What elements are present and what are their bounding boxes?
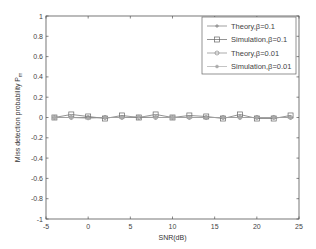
legend-label: Theory,β=0.1 <box>231 22 275 31</box>
y-tick-label: 1 <box>39 13 43 20</box>
legend-label: Simulation,β=0.01 <box>231 62 291 71</box>
y-tick-label: -0.6 <box>31 175 43 182</box>
x-tick-label: 10 <box>169 223 177 230</box>
y-axis-label: Miss detection probability Pm <box>14 73 23 162</box>
x-tick-label: 15 <box>211 223 219 230</box>
y-tick-label: 0.2 <box>33 94 43 101</box>
y-tick-label: -0.2 <box>31 134 43 141</box>
x-tick-label: 5 <box>128 223 132 230</box>
x-axis-label: SNR(dB) <box>158 234 186 242</box>
legend: Theory,β=0.1Simulation,β=0.1Theory,β=0.0… <box>202 17 296 74</box>
y-tick-label: -0.8 <box>31 195 43 202</box>
y-tick-label: -0.4 <box>31 155 43 162</box>
legend-label: Simulation,β=0.1 <box>231 35 287 44</box>
y-tick-label: 0.4 <box>33 73 43 80</box>
x-tick-label: 20 <box>253 223 261 230</box>
legend-label: Theory,β=0.01 <box>231 49 279 58</box>
x-tick-label: 0 <box>86 223 90 230</box>
y-tick-label: -1 <box>37 216 43 223</box>
x-tick-label: 25 <box>295 223 303 230</box>
chart: -50510152025 10.80.60.40.20-0.2-0.4-0.6-… <box>0 0 316 249</box>
y-tick-label: 0.6 <box>33 53 43 60</box>
y-tick-label: 0 <box>39 114 43 121</box>
x-tick-label: -5 <box>43 223 49 230</box>
y-tick-label: 0.8 <box>33 33 43 40</box>
